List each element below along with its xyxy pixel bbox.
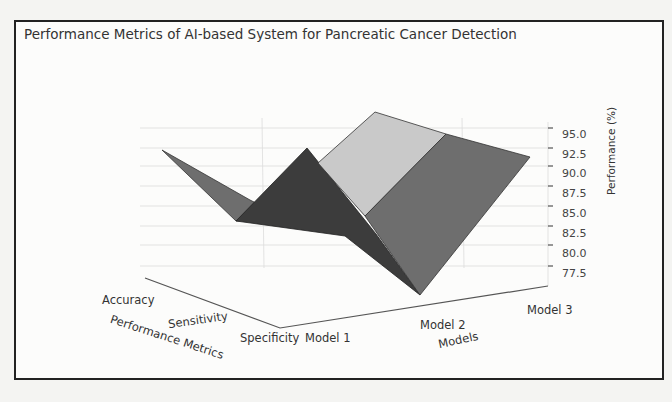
z-tick: 85.0	[562, 207, 587, 220]
z-axis-label: Performance (%)	[605, 107, 617, 195]
z-tick: 90.0	[562, 167, 587, 180]
x-tick: Specificity	[240, 331, 299, 345]
y-tick: Model 1	[305, 331, 351, 345]
z-tick: 82.5	[562, 227, 587, 240]
y-tick: Model 2	[420, 318, 466, 332]
z-tick: 80.0	[562, 247, 587, 260]
chart-title: Performance Metrics of AI-based System f…	[24, 26, 517, 42]
x-tick: Accuracy	[102, 293, 155, 307]
z-tick: 95.0	[562, 128, 587, 141]
y-tick: Model 3	[527, 303, 573, 317]
z-tick: 92.5	[562, 148, 587, 161]
z-tick: 87.5	[562, 187, 587, 200]
z-tick: 77.5	[562, 267, 587, 280]
